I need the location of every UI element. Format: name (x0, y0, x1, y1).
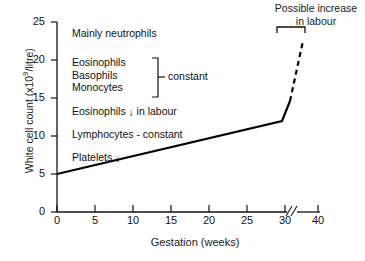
annotation-platelets-text: Platelets (72, 151, 112, 163)
annotation-monocytes: Monocytes (72, 81, 126, 94)
annotation-eosinophils-labour: Eosinophils ↓ in labour (72, 105, 177, 118)
y-axis-label-exponent: 9 (21, 72, 30, 76)
annotation-constant-label: constant (168, 70, 208, 83)
down-arrow-icon: ↓ (129, 108, 134, 118)
annotation-constant-group: Eosinophils Basophils Monocytes (72, 56, 126, 94)
annotation-eosinophils-labour-suffix: in labour (137, 105, 177, 117)
x-axis-label: Gestation (weeks) (100, 236, 290, 248)
y-axis-ticks (51, 22, 57, 212)
x-tick-label-0: 0 (45, 214, 69, 226)
y-axis-label: White cell count (x109/litre) (21, 31, 35, 191)
annotation-mainly-neutrophils: Mainly neutrophils (72, 27, 157, 40)
x-tick-label-20: 20 (197, 214, 221, 226)
x-tick-label-25: 25 (235, 214, 259, 226)
annotation-eosinophils-group: Eosinophils (72, 56, 126, 69)
x-tick-label-40: 40 (306, 214, 330, 226)
annotation-possible-increase: Possible increase in labour (268, 2, 364, 27)
annotation-basophils: Basophils (72, 69, 126, 82)
y-tick-label-0: 0 (19, 205, 45, 217)
y-axis-label-prefix: White cell count (x10 (23, 76, 35, 173)
annotation-lymphocytes: Lymphocytes - constant (72, 128, 183, 141)
constant-group-bracket (152, 58, 158, 97)
annotation-possible-increase-line1: Possible increase (275, 2, 357, 14)
x-tick-label-30: 30 (273, 214, 297, 226)
labour-bracket (277, 27, 305, 33)
chart-figure: 0 5 10 15 20 25 0 5 10 15 20 25 30 40 Wh… (0, 0, 365, 261)
x-tick-label-15: 15 (159, 214, 183, 226)
x-axis-ticks (57, 205, 318, 212)
y-tick-label-25: 25 (19, 15, 45, 27)
annotation-platelets: Platelets ↓ (72, 151, 120, 164)
x-tick-label-5: 5 (83, 214, 107, 226)
y-axis-label-suffix: /litre) (23, 48, 35, 71)
annotation-eosinophils-labour-text: Eosinophils (72, 105, 126, 117)
x-tick-label-10: 10 (121, 214, 145, 226)
down-arrow-icon-platelets: ↓ (115, 154, 120, 164)
data-line-dashed (290, 41, 303, 101)
annotation-possible-increase-line2: in labour (296, 15, 336, 27)
